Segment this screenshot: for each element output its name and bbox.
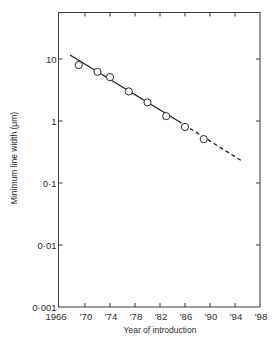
- data-point-marker: [163, 112, 170, 119]
- x-tick-label: '70: [80, 311, 92, 322]
- trend-line-solid: [70, 55, 178, 121]
- x-axis-ticks: 1966'70'74'78'82'86'90'94'98: [45, 13, 267, 323]
- x-tick-label: 1966: [45, 311, 66, 322]
- data-point-marker: [144, 99, 151, 106]
- y-axis-title: Minimum line width (μm): [9, 112, 19, 204]
- y-tick-label: 0·001: [32, 302, 56, 313]
- data-point-marker: [181, 123, 188, 130]
- x-tick-label: '82: [155, 311, 167, 322]
- y-tick-label: 0·1: [43, 178, 57, 189]
- x-tick-label: '86: [180, 311, 192, 322]
- x-axis-title: Year of introduction: [124, 325, 197, 335]
- data-point-marker: [200, 136, 207, 143]
- x-tick-label: '94: [230, 311, 242, 322]
- x-tick-label: '98: [255, 311, 267, 322]
- y-tick-label: 1: [51, 116, 56, 127]
- data-point-marker: [75, 61, 82, 68]
- data-points: [75, 61, 207, 142]
- x-tick-label: '74: [105, 311, 117, 322]
- y-axis-ticks: 1010·10·010·001: [32, 54, 260, 313]
- plot-frame: [59, 13, 261, 308]
- data-point-marker: [106, 74, 113, 81]
- data-point-marker: [125, 88, 132, 95]
- x-tick-label: '78: [130, 311, 142, 322]
- data-point-marker: [94, 68, 101, 75]
- y-tick-label: 10: [46, 54, 57, 65]
- y-tick-label: 0·01: [37, 240, 56, 251]
- line-width-chart: 1966'70'74'78'82'86'90'94'98 1010·10·010…: [0, 0, 272, 349]
- x-tick-label: '90: [205, 311, 217, 322]
